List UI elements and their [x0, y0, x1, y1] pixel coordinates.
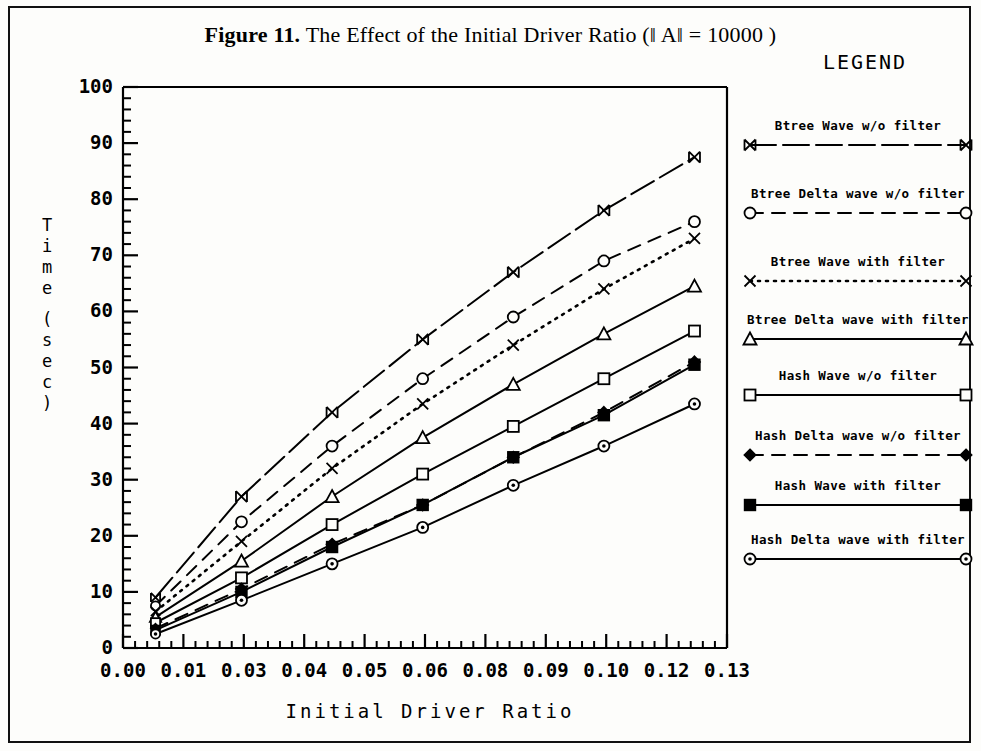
x-axis-tick-label: 0.05 — [342, 659, 388, 681]
marker-square — [598, 373, 609, 384]
y-axis-tick-label: 40 — [90, 412, 113, 434]
marker-circle-dot — [327, 558, 338, 569]
legend-sample-swatch — [734, 135, 981, 155]
legend-item-sample — [734, 271, 981, 291]
legend-item-sample — [734, 135, 981, 155]
marker-center-dot — [421, 526, 425, 530]
marker-triangle — [688, 280, 701, 292]
origin-marker-cluster — [150, 593, 161, 639]
marker-circle — [236, 516, 247, 527]
marker-filled-square — [327, 542, 338, 553]
legend-item-sample — [734, 445, 981, 465]
marker-center-dot — [154, 632, 158, 636]
y-axis-tick-label: 50 — [90, 356, 113, 378]
marker-square — [961, 390, 972, 401]
marker-x — [236, 536, 247, 547]
marker-circle-dot — [961, 554, 972, 565]
series-line — [156, 238, 695, 611]
x-axis-tick-label: 0.03 — [221, 659, 267, 681]
legend-item[interactable]: Btree Wave with filter — [734, 254, 981, 291]
legend-sample-swatch — [734, 271, 981, 291]
legend-item[interactable]: Hash Wave w/o filter — [734, 368, 981, 405]
legend-item-sample — [734, 203, 981, 223]
marker-square — [508, 421, 519, 432]
series-3 — [156, 280, 701, 617]
marker-circle — [417, 373, 428, 384]
legend-item[interactable]: Hash Wave with filter — [734, 478, 981, 515]
marker-bowtie — [417, 334, 428, 345]
marker-circle — [745, 208, 756, 219]
marker-triangle — [235, 555, 248, 567]
marker-triangle — [507, 378, 520, 390]
y-axis-tick-label: 100 — [79, 75, 113, 97]
y-axis-tick-label: 20 — [90, 524, 113, 546]
marker-circle — [961, 208, 972, 219]
legend-sample-swatch — [734, 385, 981, 405]
legend-item-label: Hash Wave w/o filter — [734, 368, 981, 383]
marker-center-dot — [240, 599, 244, 603]
legend-sample-swatch — [734, 329, 981, 349]
marker-filled-square — [417, 499, 428, 510]
marker-filled-square — [745, 500, 756, 511]
y-axis-tick-label: 10 — [90, 580, 113, 602]
marker-x — [508, 340, 519, 351]
x-axis-tick-label: 0.04 — [281, 659, 327, 681]
x-axis-tick-label: 0.01 — [161, 659, 207, 681]
x-axis-tick-label: 0.10 — [583, 659, 629, 681]
marker-bowtie — [598, 205, 609, 216]
marker-diamond — [745, 450, 756, 461]
marker-circle-dot — [689, 398, 700, 409]
marker-x — [417, 398, 428, 409]
legend-item-sample — [734, 549, 981, 569]
y-axis-tick-label: 80 — [90, 187, 113, 209]
y-axis-tick-label: 90 — [90, 131, 113, 153]
marker-circle-dot — [236, 595, 247, 606]
legend-item-label: Btree Wave w/o filter — [734, 118, 981, 133]
y-axis-tick-label: 30 — [90, 468, 113, 490]
marker-circle-dot — [417, 522, 428, 533]
marker-circle-dot — [598, 441, 609, 452]
marker-filled-square — [598, 410, 609, 421]
marker-triangle — [416, 431, 429, 443]
marker-square — [417, 469, 428, 480]
marker-square — [745, 390, 756, 401]
marker-center-dot — [330, 562, 334, 566]
marker-square — [327, 519, 338, 530]
marker-circle — [508, 312, 519, 323]
legend-item[interactable]: Btree Delta wave w/o filter — [734, 186, 981, 223]
marker-circle — [598, 255, 609, 266]
legend-item-label: Btree Delta wave w/o filter — [734, 186, 981, 201]
marker-bowtie — [689, 152, 700, 163]
marker-x — [745, 276, 756, 287]
series-4 — [156, 326, 700, 623]
series-2 — [156, 233, 700, 612]
series-line — [156, 222, 695, 606]
marker-x — [598, 283, 609, 294]
legend-item-sample — [734, 495, 981, 515]
legend-sample-swatch — [734, 549, 981, 569]
legend-item[interactable]: Btree Wave w/o filter — [734, 118, 981, 155]
marker-circle-dot — [745, 554, 756, 565]
marker-triangle — [326, 490, 339, 502]
figure-page: Figure 11. The Effect of the Initial Dri… — [0, 0, 981, 751]
legend-item-sample — [734, 329, 981, 349]
x-axis-tick-label: 0.08 — [463, 659, 509, 681]
marker-filled-square — [508, 452, 519, 463]
marker-triangle — [597, 327, 610, 339]
legend-item[interactable]: Hash Delta wave with filter — [734, 532, 981, 569]
legend-item[interactable]: Hash Delta wave w/o filter — [734, 428, 981, 465]
marker-circle-dot — [151, 629, 160, 638]
marker-center-dot — [964, 557, 968, 561]
marker-circle — [689, 216, 700, 227]
marker-filled-square — [961, 500, 972, 511]
x-axis-tick-label: 0.09 — [523, 659, 569, 681]
marker-bowtie — [508, 267, 519, 278]
marker-diamond — [961, 450, 972, 461]
legend-item-label: Hash Delta wave with filter — [734, 532, 981, 547]
x-axis-tick-label: 0.00 — [100, 659, 146, 681]
marker-center-dot — [511, 484, 515, 488]
legend-sample-swatch — [734, 445, 981, 465]
legend-item-sample — [734, 385, 981, 405]
y-axis-tick-label: 0 — [102, 636, 113, 658]
legend-item[interactable]: Btree Delta wave with filter — [734, 312, 981, 349]
